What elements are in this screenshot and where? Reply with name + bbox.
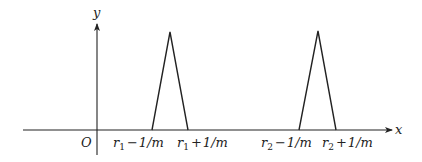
origin-label: O <box>81 135 92 150</box>
diagram-canvas: y x O r1−1/m r1+1/m r2−1/m r2+1/m <box>0 0 422 162</box>
peak-r2-right-label: r2+1/m <box>322 135 373 152</box>
peak-r1-triangle <box>152 32 188 130</box>
peak-r2-left-label: r2−1/m <box>261 135 312 152</box>
peak-r2-triangle <box>299 31 336 130</box>
y-axis-label: y <box>92 5 101 20</box>
peak-r1-left-label: r1−1/m <box>113 135 164 152</box>
peak-r1-right-label: r1+1/m <box>177 135 228 152</box>
x-axis-label: x <box>395 122 403 137</box>
